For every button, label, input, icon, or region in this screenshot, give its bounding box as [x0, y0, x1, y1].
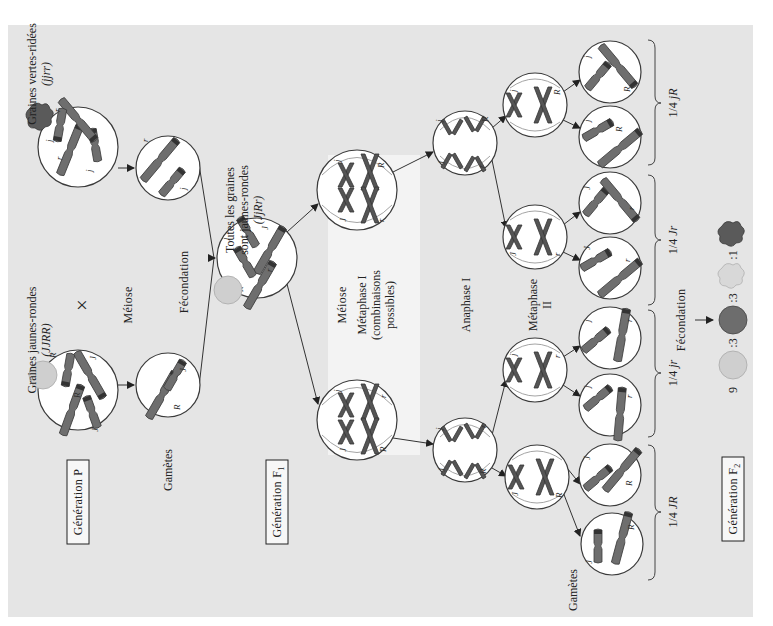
gamete-fraction-jR: 1/4 jR — [666, 88, 680, 118]
metaphase2-label-line1: Métaphase — [526, 279, 540, 331]
fecondation-1-label: Fécondation — [177, 251, 191, 314]
gamete-fraction-jr: 1/4 jr — [666, 360, 680, 387]
svg-text:R: R — [478, 468, 488, 475]
svg-text:R: R — [614, 126, 624, 133]
metaphase2-cell-Jr: J r — [503, 205, 567, 269]
meiosis-f1-label: Méiose — [335, 286, 349, 323]
metaphase2-label-line2: II — [540, 301, 554, 309]
svg-text:r: r — [478, 424, 488, 428]
svg-text:j: j — [508, 353, 518, 357]
dihybrid-cross-diagram: J R R J j r r j R J r j R — [0, 0, 773, 626]
parent-green-wrinkled-label: Graines vertes-ridées — [25, 23, 39, 125]
f1-description-line1: Toutes les graines — [223, 167, 237, 253]
svg-text:r: r — [264, 268, 274, 272]
metaphase1-cell-bottom: J j r R — [317, 380, 397, 460]
svg-text:R: R — [172, 404, 182, 411]
svg-text:j: j — [178, 187, 188, 191]
parent-yellow-round-genotype: (JJRR) — [39, 323, 53, 356]
generation-f1-box: Génération F1 — [266, 460, 288, 544]
svg-text:R: R — [626, 524, 636, 531]
gametes-p-label: Gamètes — [161, 449, 175, 491]
metaphase1-note-line2: possibles) — [383, 281, 397, 329]
gamete-cell-jr: r j — [136, 136, 200, 200]
anaphase1-cell-bottom: J j r R — [433, 418, 497, 482]
svg-text:j: j — [332, 159, 342, 163]
generation-f2-box: Génération F2 — [722, 457, 744, 541]
generation-f2-label: Génération F2 — [726, 464, 742, 535]
svg-text:r: r — [52, 108, 62, 112]
svg-text:j: j — [582, 119, 592, 123]
svg-text:R: R — [622, 86, 632, 93]
gametes-f1-label: Gamètes — [566, 569, 580, 611]
meiosis-p-label: Méiose — [121, 286, 135, 323]
metaphase1-note-line1: (combinaisons — [369, 270, 383, 340]
svg-text:j: j — [84, 169, 94, 173]
ratio-count-9: 9 — [726, 387, 740, 393]
anaphase1-label: Anaphase I — [459, 278, 473, 332]
metaphase1-label: Métaphase I — [355, 276, 369, 335]
svg-text:R: R — [552, 89, 562, 96]
gamete-fraction-JR: 1/4 JR — [666, 496, 680, 528]
svg-text:r: r — [552, 252, 562, 256]
svg-text:r: r — [552, 354, 562, 358]
svg-text:j: j — [582, 385, 592, 389]
metaphase2-cell-jR: j R — [503, 73, 567, 137]
svg-text:r: r — [378, 394, 388, 398]
svg-text:r: r — [140, 138, 150, 142]
svg-text:r: r — [376, 218, 386, 222]
svg-text:j: j — [508, 89, 518, 93]
parent-green-wrinkled-genotype: (jjrr) — [39, 62, 53, 86]
svg-text:r: r — [624, 318, 634, 322]
generation-p-label: Génération P — [71, 469, 85, 536]
generation-f1-label: Génération F1 — [270, 467, 286, 538]
svg-text:r: r — [626, 206, 636, 210]
svg-text:R: R — [378, 446, 388, 453]
metaphase1-cell-top: J j R r — [317, 150, 397, 230]
svg-text:r: r — [622, 258, 632, 262]
gamete-fraction-Jr: 1/4 Jr — [666, 226, 680, 255]
fecondation-2-label: Fécondation — [674, 289, 688, 352]
metaphase2-cell-JR: J R — [505, 445, 569, 509]
svg-text:j: j — [582, 319, 592, 323]
gamete-JR-1: J R — [579, 444, 642, 506]
gamete-jr-1: j r — [579, 307, 641, 369]
svg-text:R: R — [624, 480, 634, 487]
cross-symbol: × — [71, 299, 93, 310]
metaphase2-cell-jr: j r — [503, 338, 567, 402]
ratio-count-1: :1 — [726, 250, 740, 259]
gamete-jR-1: j R — [579, 41, 641, 103]
generation-p-box: Génération P — [67, 460, 89, 544]
seed-yellow-round-f2-icon — [719, 351, 747, 379]
svg-text:R: R — [480, 116, 490, 123]
svg-text:r: r — [624, 394, 634, 398]
svg-text:R: R — [72, 392, 82, 399]
ratio-count-3b: :3 — [726, 293, 740, 302]
svg-text:j: j — [332, 389, 342, 393]
f1-description-line2: sont jaunes-rondes — [237, 165, 251, 255]
gamete-Jr-1: J r — [579, 172, 641, 234]
svg-text:r: r — [54, 156, 64, 160]
f1-genotype: (JjRr) — [251, 196, 265, 225]
svg-text:j: j — [434, 427, 444, 431]
svg-text:j: j — [434, 119, 444, 123]
parent-yellow-round-label: Graines jaunes-rondes — [25, 286, 39, 393]
ratio-count-3a: :3 — [726, 338, 740, 347]
svg-text:R: R — [554, 492, 564, 499]
anaphase1-cell-top: J j R r — [433, 111, 497, 175]
svg-text:R: R — [376, 162, 386, 169]
svg-text:j: j — [44, 139, 54, 143]
svg-text:r: r — [476, 164, 486, 168]
seed-green-round-f2-icon — [719, 306, 747, 334]
seed-f1-yellow-round-icon — [214, 276, 242, 304]
svg-text:j: j — [582, 55, 592, 59]
